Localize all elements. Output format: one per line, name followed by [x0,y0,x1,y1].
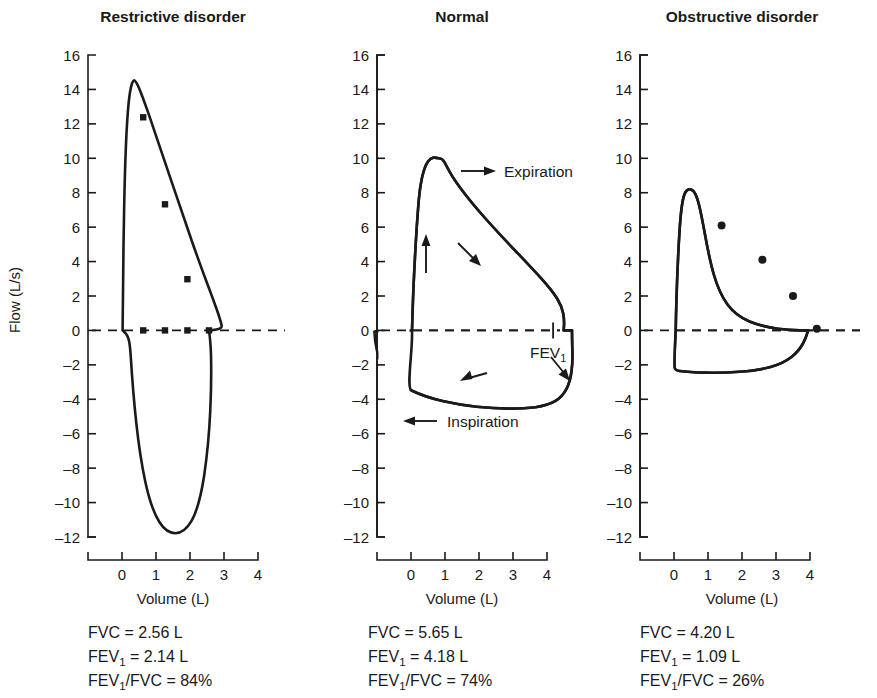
caption-normal: FVC = 5.65 L FEV1 = 4.18 L FEV1/FVC = 74… [368,624,492,692]
x-tick-label: 2 [186,566,194,583]
y-tick-label: –12 [607,529,632,546]
y-tick-label: –2 [63,356,80,373]
x-ticks-obstructive [674,552,776,560]
y-tick-label: –4 [352,391,369,408]
flow-volume-loop-figure: Flow (L/s) Restrictive disorder 16 14 12 [0,0,877,698]
panel-clear-restrictive [86,52,286,536]
panel-clear-obstructive-left [642,56,674,534]
expiration-label: Expiration [504,163,573,180]
y-tick-label: 16 [615,47,632,64]
y-tick-label: 6 [361,219,369,236]
direction-arrow-inspiratory-left [460,371,487,382]
caption-fev1: FEV1 = 1.09 L [640,648,740,668]
y-tick-label: 6 [624,219,632,236]
y-tick-label: 10 [63,150,80,167]
caption-ratio: FEV1/FVC = 74% [368,672,492,692]
y-tick-label: 12 [63,115,80,132]
x-tick-label: 2 [475,566,483,583]
y-tick-label: –8 [352,460,369,477]
y-tick-label: –12 [344,529,369,546]
caption-fvc: FVC = 2.56 L [88,624,183,641]
marker-square [162,201,168,207]
panel-clear-normal-left [379,56,410,534]
figure-svg: Flow (L/s) Restrictive disorder 16 14 12 [0,0,877,698]
y-tick-label: –12 [55,529,80,546]
inspiration-annotation: Inspiration [403,413,519,430]
caption-ratio: FEV1/FVC = 84% [88,672,212,692]
direction-arrow-up [422,234,431,273]
x-tick-label: 0 [118,566,126,583]
marker-dot [718,221,726,229]
y-tick-labels-obstructive: 16 14 12 10 8 6 4 2 0 –2 –4 –6 –8 –10 –1… [607,47,632,546]
panel-obstructive: Obstructive disorder 16 14 12 10 8 6 4 2 [607,8,860,692]
x-tick-labels-restrictive: 0 1 2 3 4 [118,566,262,583]
marker-square [184,276,190,282]
marker-dot [789,292,797,300]
caption-obstructive: FVC = 4.20 L FEV1 = 1.09 L FEV1/FVC = 26… [640,624,764,692]
y-tick-label: 10 [352,150,369,167]
x-axis-spine-restrictive [88,552,258,560]
y-tick-label: –8 [615,460,632,477]
y-tick-label: 12 [615,115,632,132]
x-tick-label: 4 [254,566,262,583]
inspiratory-left-arrow-head [460,371,473,382]
x-tick-label: 3 [772,566,780,583]
y-tick-label: 0 [624,322,632,339]
y-tick-label: –4 [63,391,80,408]
y-tick-label: 6 [72,219,80,236]
x-ticks-normal [411,552,513,560]
x-axis-title-obstructive: Volume (L) [706,590,779,607]
x-axis-title-normal: Volume (L) [426,590,499,607]
y-tick-labels-normal: 16 14 12 10 8 6 4 2 0 –2 –4 –6 –8 –10 –1… [344,47,369,546]
x-ticks-restrictive [122,552,224,560]
panel-title-obstructive: Obstructive disorder [666,8,818,25]
x-tick-label: 1 [704,566,712,583]
x-tick-label: 1 [152,566,160,583]
y-tick-label: 8 [72,184,80,201]
y-tick-label: 12 [352,115,369,132]
y-tick-label: 2 [72,288,80,305]
flow-volume-loop-obstructive-final [674,189,808,372]
y-tick-label: –10 [55,494,80,511]
y-tick-label: 4 [72,253,80,270]
caption-restrictive: FVC = 2.56 L FEV1 = 2.14 L FEV1/FVC = 84… [88,624,212,692]
panel-normal: Normal 16 14 12 10 8 6 4 2 0 [344,8,573,692]
data-markers-obstructive [718,221,821,332]
expiration-arrow-head [484,167,496,176]
marker-dot [758,256,766,264]
x-tick-label: 4 [543,566,551,583]
x-tick-labels-obstructive: 0 1 2 3 4 [670,566,814,583]
y-tick-label: –4 [615,391,632,408]
x-axis-title-restrictive: Volume (L) [137,590,210,607]
x-axis-spine-obstructive [640,552,810,560]
marker-square [140,114,146,120]
caption-fev1: FEV1 = 4.18 L [368,648,468,668]
y-tick-label: 0 [72,322,80,339]
y-tick-label: 16 [63,47,80,64]
y-tick-label: 10 [615,150,632,167]
caption-ratio: FEV1/FVC = 26% [640,672,764,692]
x-tick-label: 0 [407,566,415,583]
flow-volume-loop-normal-final [409,158,572,409]
y-tick-label: –6 [63,425,80,442]
y-tick-label: –2 [615,356,632,373]
y-tick-label: 4 [624,253,632,270]
marker-square [140,327,146,333]
y-tick-label: 0 [361,322,369,339]
y-tick-label: –10 [344,494,369,511]
panel-title-restrictive: Restrictive disorder [100,8,246,25]
direction-arrow-expiratory-descent [458,243,481,266]
marker-square [206,327,212,333]
x-tick-label: 3 [509,566,517,583]
y-tick-label: 2 [361,288,369,305]
marker-dot [813,325,821,333]
y-tick-label: 4 [361,253,369,270]
x-tick-label: 3 [220,566,228,583]
marker-square [184,327,190,333]
y-tick-label: 16 [352,47,369,64]
inspiration-label: Inspiration [447,413,519,430]
panel-restrictive: Restrictive disorder 16 14 12 10 8 6 [55,8,286,692]
marker-square [162,327,168,333]
y-tick-label: –2 [352,356,369,373]
caption-fev1: FEV1 = 2.14 L [88,648,188,668]
